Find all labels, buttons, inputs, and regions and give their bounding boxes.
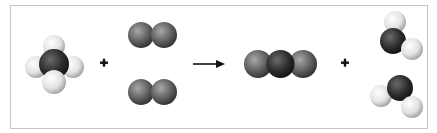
oxygen-atom [128,79,154,105]
oxygen-atom [151,22,177,48]
carbon-dioxide-molecule [244,50,317,78]
oxygen-molecule [128,22,177,48]
hydrogen-atom [401,96,423,118]
hydrogen-atom [42,70,66,94]
reaction-arrow [193,60,225,68]
hydrogen-atom [401,38,423,60]
reaction-diagram [0,0,437,133]
oxygen-molecule [128,79,177,105]
water-molecule [380,11,423,60]
oxygen-atom [128,22,154,48]
oxygen-atom [151,79,177,105]
methane-molecule [25,35,84,94]
plus-sign [341,59,349,67]
water-molecule [370,75,423,118]
plus-sign [100,59,108,67]
